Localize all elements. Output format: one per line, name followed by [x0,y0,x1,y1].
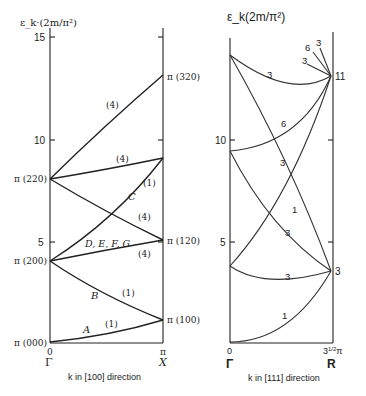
deg-fan-3a: 3 [316,37,321,48]
deg-fan-6: 6 [305,42,310,53]
label-B-deg: (1) [122,288,135,298]
right-gamma-point: Γ [226,357,234,371]
level-pi-000: π (000) [14,338,47,348]
left-X-point: X [158,356,168,369]
band-structure-figure: ε_k·(2m/π²) 15 10 5 π (000) π (200) π (2… [0,0,366,396]
band-220-upper [50,158,163,179]
deg-cross-1: 1 [292,204,297,215]
deg-cross-3a: 3 [285,227,290,238]
right-band-6-8to11 [230,76,331,151]
left-x-axis-caption: k in [100] direction [68,372,141,382]
right-x-start-value: 0 [227,346,232,356]
right-band-3-8to3 [230,151,331,271]
right-band-1-low [230,271,331,342]
R-level-11: 11 [335,71,346,82]
label-top-deg: (4) [106,100,119,110]
level-pi-200: π (200) [14,256,47,266]
label-DEFG-deg: (4) [138,249,151,259]
right-band-3-4to11 [230,76,331,266]
deg-mid-3: 3 [285,271,290,282]
label-C: C [128,191,136,202]
level-pi-320: π (320) [167,72,200,82]
label-upper-deg: (4) [116,154,129,164]
level-pi-120: π (120) [167,236,200,246]
deg-cross-3b: 3 [280,157,285,168]
level-pi-220: π (220) [14,174,47,184]
right-tick-label-5: 5 [220,237,226,248]
fan-line-6 [313,52,331,76]
left-panel: ε_k·(2m/π²) 15 10 5 π (000) π (200) π (2… [14,17,200,382]
right-y-axis-label: ε_k(2m/π²) [227,10,285,24]
band-220-to-320 [50,75,163,179]
label-A-deg: (1) [105,319,118,329]
tick-label-5: 5 [38,237,44,248]
right-tick-label-10: 10 [215,135,227,146]
label-B: B [90,290,98,301]
left-gamma-point: Γ [45,356,53,369]
label-C-deg: (1) [143,178,156,188]
right-panel: ε_k(2m/π²) 10 5 3 11 1 3 1 3 3 6 3 [215,10,346,383]
left-y-axis-label: ε_k·(2m/π²) [20,17,77,29]
label-A: A [82,324,90,335]
level-pi-100: π (100) [167,315,200,325]
right-x-axis-caption: k in [111] direction [248,373,320,383]
tick-label-15: 15 [34,32,46,43]
label-cross-deg: (4) [138,212,151,222]
R-level-3: 3 [335,266,341,277]
deg-six: 6 [281,118,286,129]
right-x-end-value: 31/2π [323,346,343,356]
right-band-3-12to11 [230,55,331,84]
right-R-point: R [327,357,336,371]
deg-top-3: 3 [267,69,272,80]
deg-fan-3b: 3 [302,55,307,66]
band-220-to-120 [50,179,163,240]
right-band-3-4to3 [230,266,331,279]
label-DEFG: D, E, F, G [84,238,130,249]
deg-low-1: 1 [282,310,287,321]
band-B [50,261,163,320]
tick-label-10: 10 [34,135,46,146]
